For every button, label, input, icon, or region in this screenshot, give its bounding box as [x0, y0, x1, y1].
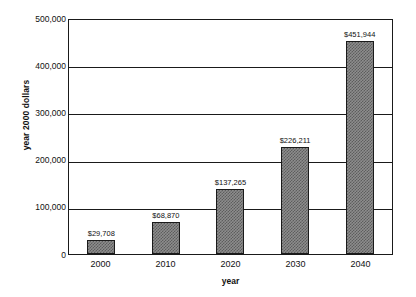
bar — [346, 41, 374, 254]
x-axis-tick-labels: 20002010202020302040 — [68, 259, 393, 270]
bar-series: $29,708$68,870$137,265$226,211$451,944 — [69, 20, 392, 254]
y-axis-tick-label: 0 — [18, 251, 66, 260]
y-axis-tick-label: 200,000 — [18, 156, 66, 165]
x-axis-tick-label: 2010 — [133, 259, 198, 270]
y-axis-tick-label: 500,000 — [18, 15, 66, 24]
x-axis-tick-label: 2000 — [68, 259, 133, 270]
bar-value-label: $68,870 — [131, 212, 201, 220]
bar — [87, 240, 115, 254]
plot-area: $29,708$68,870$137,265$226,211$451,944 — [68, 19, 393, 255]
bar-slot: $137,265 — [198, 20, 263, 254]
bar-slot: $451,944 — [327, 20, 392, 254]
bar-slot: $29,708 — [69, 20, 134, 254]
bar — [216, 189, 244, 254]
x-axis-tick-label: 2030 — [263, 259, 328, 270]
x-axis-tick-label: 2020 — [198, 259, 263, 270]
bar-slot: $226,211 — [263, 20, 328, 254]
y-axis-tick-labels: 0100,000200,000300,000400,000500,000 — [14, 0, 66, 297]
bar-value-label: $226,211 — [260, 137, 330, 145]
y-axis-tick-label: 300,000 — [18, 109, 66, 118]
bar-slot: $68,870 — [134, 20, 199, 254]
bar-chart: year 2000 dollars 0100,000200,000300,000… — [0, 0, 416, 297]
bar — [152, 222, 180, 255]
bar-value-label: $137,265 — [195, 179, 265, 187]
y-axis-tick-label: 400,000 — [18, 62, 66, 71]
bar-value-label: $451,944 — [325, 31, 395, 39]
bar-value-label: $29,708 — [66, 230, 136, 238]
bar — [281, 147, 309, 254]
x-axis-title: year — [68, 276, 393, 286]
x-axis-tick-label: 2040 — [328, 259, 393, 270]
y-axis-tick-label: 100,000 — [18, 203, 66, 212]
